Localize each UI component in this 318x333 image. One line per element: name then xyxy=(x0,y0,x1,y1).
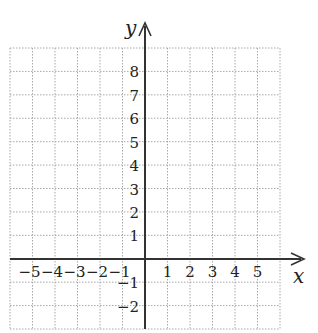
x-tick-label: 2 xyxy=(185,263,195,281)
coordinate-plane: y x −5−4−3−2−112345 87654321−1−2 xyxy=(0,0,318,333)
y-tick-label: 7 xyxy=(129,87,139,105)
x-tick-labels: −5−4−3−2−112345 xyxy=(18,263,262,281)
y-tick-label: −2 xyxy=(117,298,139,316)
x-tick-label: 5 xyxy=(253,263,263,281)
x-axis-label: x xyxy=(293,264,304,288)
y-tick-label: 3 xyxy=(129,181,139,199)
x-tick-label: 1 xyxy=(163,263,173,281)
x-tick-label: −2 xyxy=(86,263,108,281)
x-tick-label: −5 xyxy=(18,263,40,281)
x-tick-label: 4 xyxy=(230,263,240,281)
y-tick-label: −1 xyxy=(117,274,139,292)
x-tick-label: −3 xyxy=(63,263,85,281)
x-tick-label: −4 xyxy=(41,263,63,281)
y-tick-label: 1 xyxy=(129,227,139,245)
y-tick-label: 2 xyxy=(129,204,139,222)
y-tick-label: 8 xyxy=(129,63,139,81)
y-tick-labels: 87654321−1−2 xyxy=(117,63,139,315)
x-tick-label: 3 xyxy=(208,263,218,281)
y-tick-label: 4 xyxy=(129,157,139,175)
y-tick-label: 5 xyxy=(129,134,139,152)
y-axis-label: y xyxy=(124,16,137,40)
y-tick-label: 6 xyxy=(129,110,139,128)
